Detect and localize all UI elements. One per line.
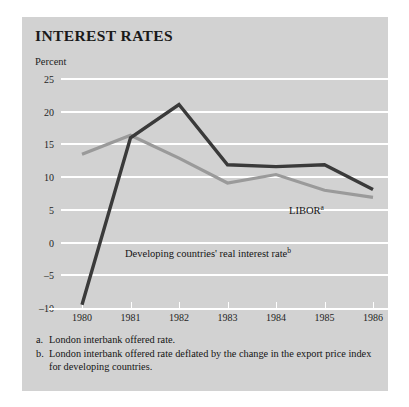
footnote-text: London interbank offered rate. [49, 333, 376, 347]
plot-area: 2520151050–5–10 198019811982198319841985… [61, 79, 390, 308]
chart-title: INTEREST RATES [35, 27, 173, 45]
x-axis-tick-label: 1982 [169, 312, 189, 323]
footnote: b.London interbank offered rate deflated… [36, 347, 376, 374]
y-axis-tick-label: 5 [49, 204, 54, 215]
footnote-marker: b. [36, 347, 49, 361]
line-developing-countries-real-rate [82, 105, 373, 305]
y-axis-tick-label: –5 [44, 270, 54, 281]
footnote-marker: a. [36, 333, 49, 347]
footnote: a.London interbank offered rate. [36, 333, 376, 347]
footnote-text: London interbank offered rate deflated b… [49, 347, 376, 374]
y-axis-title: Percent [35, 56, 67, 67]
footnotes: a.London interbank offered rate.b.London… [36, 333, 376, 374]
x-axis-tick-label: 1980 [72, 312, 92, 323]
x-axis-tick-label: 1981 [121, 312, 141, 323]
x-axis-tick-label: 1986 [363, 312, 383, 323]
series-label-developing-countries: Developing countries' real interest rate… [125, 248, 291, 259]
y-axis-tick-label: 10 [44, 172, 54, 183]
series-label-libor-text: LIBOR [289, 205, 321, 216]
x-axis-tick-label: 1983 [218, 312, 238, 323]
series-label-developing-countries-text: Developing countries' real interest rate [125, 248, 287, 259]
x-axis-tick-label: 1984 [266, 312, 286, 323]
y-axis-tick-label: 20 [44, 106, 54, 117]
series-lines [61, 79, 390, 308]
series-label-libor-superscript: a [321, 203, 324, 212]
y-axis-tick-label: 15 [44, 139, 54, 150]
x-axis-tick-label: 1985 [315, 312, 335, 323]
y-axis-tick-label: 25 [44, 74, 54, 85]
chart-panel: INTEREST RATES Percent 2520151050–5–10 1… [22, 17, 388, 391]
series-label-libor: LIBORa [289, 205, 324, 216]
y-axis-tick-label: 0 [49, 237, 54, 248]
x-axis-line [49, 308, 390, 310]
series-label-developing-countries-superscript: b [287, 246, 291, 255]
